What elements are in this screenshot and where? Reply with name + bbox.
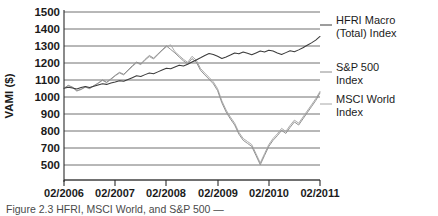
legend-item-hfri-macro-line2: (Total) Index — [336, 27, 397, 39]
vami-line-chart: 1500 1400 1300 1200 1100 1000 900 800 70… — [0, 0, 438, 216]
legend-item-sp500-line2: Index — [336, 74, 363, 86]
y-axis-tick-labels: 1500 1400 1300 1200 1100 1000 900 800 70… — [34, 6, 60, 171]
figure-caption: Figure 2.3 HFRI, MSCI World, and S&P 500… — [6, 203, 436, 215]
y-tick-label: 1300 — [34, 40, 60, 52]
x-axis-tickmarks — [64, 180, 320, 186]
y-tick-label: 1100 — [35, 74, 60, 86]
legend-item-sp500-line1: S&P 500 — [336, 61, 379, 73]
y-tick-label: 900 — [41, 108, 60, 120]
y-tick-label: 800 — [41, 125, 60, 137]
x-tick-label: 02/2007 — [95, 187, 135, 199]
y-tick-label: 700 — [41, 142, 60, 154]
x-axis-tick-labels: 02/2006 02/2007 02/2008 02/2009 02/2010 … — [44, 187, 339, 199]
x-tick-label: 02/2008 — [146, 187, 186, 199]
y-axis-title: VAMI ($) — [3, 73, 15, 118]
x-tick-label: 02/2006 — [44, 187, 84, 199]
plot-area-background — [64, 12, 320, 180]
legend: HFRI Macro (Total) Index S&P 500 Index M… — [336, 14, 397, 118]
legend-item-hfri-macro-line1: HFRI Macro — [336, 14, 395, 26]
chart-figure: 1500 1400 1300 1200 1100 1000 900 800 70… — [0, 0, 438, 216]
legend-item-msci-world-line2: Index — [336, 106, 363, 118]
x-tick-label: 02/2010 — [249, 187, 289, 199]
y-tick-label: 1200 — [34, 57, 60, 69]
legend-leaders — [320, 25, 332, 104]
legend-item-msci-world-line1: MSCI World — [336, 93, 395, 105]
y-tick-label: 500 — [41, 159, 60, 171]
x-tick-label: 02/2011 — [300, 187, 339, 199]
x-tick-label: 02/2009 — [198, 187, 238, 199]
y-tick-label: 1400 — [34, 23, 60, 35]
y-tick-label: 1000 — [34, 91, 60, 103]
y-tick-label: 1500 — [34, 6, 60, 18]
